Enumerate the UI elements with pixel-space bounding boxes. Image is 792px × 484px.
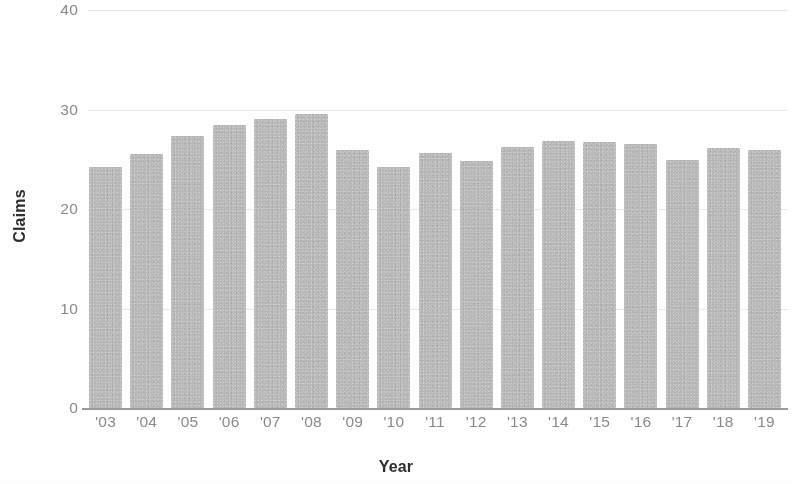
x-tick-label: '18	[703, 414, 743, 430]
x-tick-label: '16	[621, 414, 661, 430]
plot-area	[88, 6, 788, 410]
bar	[213, 125, 246, 408]
bar	[748, 150, 781, 408]
x-tick-label: '11	[415, 414, 455, 430]
y-tick-label: 10	[38, 301, 78, 317]
x-tick-label: '04	[127, 414, 167, 430]
bar-chart-figure: Claims 010203040 '03'04'05'06'07'08'09'1…	[0, 0, 792, 484]
x-axis-title: Year	[0, 458, 792, 476]
x-axis-tick-labels: '03'04'05'06'07'08'09'10'11'12'13'14'15'…	[0, 414, 792, 438]
y-tick-label: 40	[38, 2, 78, 18]
x-tick-label: '19	[744, 414, 784, 430]
bar	[336, 150, 369, 408]
bar	[171, 136, 204, 408]
bar	[583, 142, 616, 408]
y-axis-title: Claims	[11, 178, 29, 254]
bar	[130, 154, 163, 408]
bar	[460, 161, 493, 408]
bar	[624, 144, 657, 408]
x-tick-label: '10	[374, 414, 414, 430]
x-tick-label: '07	[250, 414, 290, 430]
bar	[295, 114, 328, 408]
x-tick-label: '12	[456, 414, 496, 430]
bar	[254, 119, 287, 408]
bar	[666, 160, 699, 408]
x-tick-label: '03	[86, 414, 126, 430]
bar	[89, 167, 122, 408]
x-tick-label: '13	[497, 414, 537, 430]
gridline-30	[88, 110, 788, 111]
x-tick-label: '09	[333, 414, 373, 430]
gridline-40	[88, 10, 788, 11]
x-tick-label: '08	[291, 414, 331, 430]
x-tick-label: '15	[580, 414, 620, 430]
y-tick-label: 30	[38, 102, 78, 118]
y-tick-label: 20	[38, 201, 78, 217]
bar	[419, 153, 452, 408]
x-axis-line	[82, 408, 788, 410]
bar	[707, 148, 740, 408]
bar	[501, 147, 534, 408]
bar	[377, 167, 410, 408]
bar	[542, 141, 575, 408]
x-tick-label: '17	[662, 414, 702, 430]
x-tick-label: '06	[209, 414, 249, 430]
x-tick-label: '14	[539, 414, 579, 430]
x-tick-label: '05	[168, 414, 208, 430]
y-axis-tick-labels: 010203040	[34, 0, 78, 484]
